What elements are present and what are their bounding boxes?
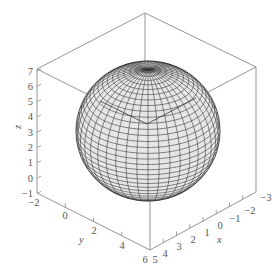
z-tick-label: 3 (28, 127, 33, 138)
x-tick-label: 1 (204, 227, 209, 238)
x-tick-label: 2 (190, 234, 195, 245)
y-axis: −20246 (28, 197, 147, 265)
y-tick-label: 4 (119, 240, 125, 251)
z-axis-label: z (12, 125, 23, 130)
z-tick-label: 6 (28, 81, 33, 92)
z-tick (37, 84, 41, 86)
x-tick-label: −2 (244, 205, 255, 216)
y-tick-label: −2 (28, 197, 39, 208)
z-tick-label: 0 (28, 173, 33, 184)
z-tick (37, 191, 41, 193)
z-tick-label: 4 (28, 111, 34, 122)
z-axis: 76543210−1 (22, 66, 41, 199)
z-tick-label: 1 (28, 157, 33, 168)
y-tick-label: 0 (62, 210, 67, 221)
z-tick (37, 100, 41, 102)
x-tick-label: 3 (176, 241, 181, 252)
z-tick (37, 161, 41, 163)
x-tick-label: 4 (162, 248, 168, 259)
z-tick-label: 2 (28, 142, 33, 153)
z-tick (37, 130, 41, 132)
x-axis: 543210−1−2−3 (152, 192, 271, 265)
y-tick-label: 6 (142, 254, 147, 265)
x-tick-label: 5 (152, 254, 157, 265)
y-axis-label: y (78, 234, 84, 245)
z-tick-label: 5 (28, 96, 33, 107)
sphere-surface (76, 61, 220, 201)
z-tick (37, 146, 41, 148)
z-tick-label: 7 (28, 66, 33, 77)
z-tick (37, 176, 41, 178)
y-tick-label: 2 (91, 225, 96, 236)
x-tick-label: −1 (229, 213, 240, 224)
x-tick-label: 0 (217, 220, 222, 231)
z-tick (37, 115, 41, 117)
x-tick-label: −3 (260, 192, 271, 203)
sphere-3d-plot: 76543210−1 z −20246 y 543210−1−2−3 x (0, 0, 280, 274)
x-axis-label: x (216, 234, 222, 245)
